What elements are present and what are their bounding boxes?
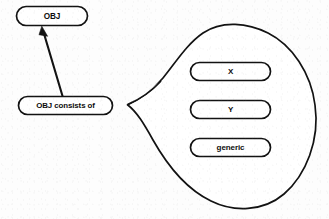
node-obj-label: OBJ <box>44 12 61 21</box>
diagram-svg: OBJ OBJ consists of X Y generic <box>0 0 329 219</box>
node-y[interactable]: Y <box>191 101 271 119</box>
node-x-label: X <box>228 67 234 76</box>
node-obj-consists-of[interactable]: OBJ consists of <box>19 97 113 115</box>
edge-consists-to-obj[interactable] <box>39 26 63 96</box>
edge-consists-to-obj-arrowhead <box>39 26 48 36</box>
node-generic-label: generic <box>217 143 245 152</box>
node-x[interactable]: X <box>191 63 271 81</box>
edge-consists-to-obj-line <box>44 32 63 96</box>
node-y-label: Y <box>228 105 234 114</box>
node-obj[interactable]: OBJ <box>17 7 88 26</box>
node-generic[interactable]: generic <box>191 139 271 157</box>
diagram-canvas: OBJ OBJ consists of X Y generic <box>0 0 329 219</box>
node-obj-consists-of-label: OBJ consists of <box>36 101 95 110</box>
